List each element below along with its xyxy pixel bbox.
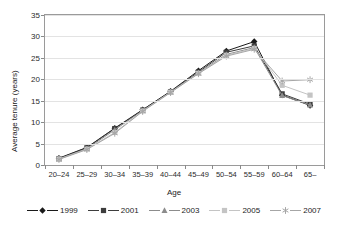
x-axis-tick-mark	[73, 165, 74, 169]
x-axis-tick-mark	[268, 165, 269, 169]
x-axis-tick-mark	[101, 165, 102, 169]
gridline	[45, 15, 324, 16]
legend-line-segment	[209, 210, 220, 211]
legend-line-segment	[290, 210, 301, 211]
x-axis-tick-mark	[45, 165, 46, 169]
y-axis-tick-label: 35	[18, 11, 40, 20]
legend-item-1999[interactable]: 1999	[27, 206, 78, 215]
chart-legend: 19992001200320052007	[0, 206, 348, 215]
legend-marker-diamond-icon	[38, 206, 47, 215]
x-axis-tick-label: 60–64	[272, 170, 293, 179]
x-axis-tick-mark	[296, 165, 297, 169]
x-axis-tick-label: 65–	[304, 170, 317, 179]
data-point-triangle	[161, 207, 167, 213]
x-axis-tick-label: 20–24	[49, 170, 70, 179]
x-axis-tick-label: 40–44	[160, 170, 181, 179]
legend-label: 2007	[303, 206, 321, 215]
y-axis-tick-label: 20	[18, 75, 40, 84]
legend-line-segment	[88, 210, 99, 211]
x-axis-tick-label: 50–54	[216, 170, 237, 179]
legend-label: 2003	[182, 206, 200, 215]
gridline	[45, 79, 324, 80]
x-axis-tick-label: 25–29	[76, 170, 97, 179]
series-line	[59, 48, 310, 159]
x-axis-tick-label: 45–49	[188, 170, 209, 179]
legend-item-2003[interactable]: 2003	[149, 206, 200, 215]
legend-label: 1999	[60, 206, 78, 215]
gridline	[45, 36, 324, 37]
legend-line-segment	[27, 210, 38, 211]
x-axis-tick-mark	[212, 165, 213, 169]
series-2007	[56, 46, 313, 163]
x-axis-tick-mark	[185, 165, 186, 169]
data-point-asterisk	[283, 207, 289, 214]
legend-label: 2001	[121, 206, 139, 215]
legend-item-2001[interactable]: 2001	[88, 206, 139, 215]
x-axis-title: Age	[0, 188, 348, 197]
legend-line-segment	[47, 210, 58, 211]
y-axis-tick-label: 30	[18, 32, 40, 41]
gridline	[45, 144, 324, 145]
legend-item-2007[interactable]: 2007	[270, 206, 321, 215]
x-axis-tick-mark	[240, 165, 241, 169]
x-axis-tick-mark	[324, 165, 325, 169]
y-axis-tick-label: 10	[18, 118, 40, 127]
gridline	[45, 58, 324, 59]
legend-marker-asterisk-icon	[281, 206, 290, 215]
y-axis-tick-label: 15	[18, 96, 40, 105]
x-axis-tick-label: 35–39	[132, 170, 153, 179]
data-point-diamond	[39, 207, 45, 213]
y-axis-tick-label: 5	[18, 139, 40, 148]
gridline	[45, 101, 324, 102]
x-axis-tick-mark	[157, 165, 158, 169]
legend-line-segment	[108, 210, 119, 211]
chart-container: Average tenure (years) 05101520253035 20…	[0, 0, 348, 232]
plot-area	[44, 14, 325, 166]
gridline	[45, 122, 324, 123]
data-point-square	[101, 208, 106, 213]
legend-marker-square-light-icon	[220, 206, 229, 215]
series-canvas	[45, 15, 324, 165]
legend-line-segment	[169, 210, 180, 211]
data-point-square-light	[222, 208, 227, 213]
x-axis-tick-label: 55–59	[244, 170, 265, 179]
legend-label: 2005	[242, 206, 260, 215]
x-axis-tick-label: 30–34	[104, 170, 125, 179]
x-axis-tick-mark	[129, 165, 130, 169]
y-axis-tick-label: 0	[18, 161, 40, 170]
legend-marker-square-icon	[99, 206, 108, 215]
y-axis-tick-label: 25	[18, 53, 40, 62]
legend-line-segment	[229, 210, 240, 211]
legend-line-segment	[149, 210, 160, 211]
legend-line-segment	[270, 210, 281, 211]
legend-item-2005[interactable]: 2005	[209, 206, 260, 215]
data-point-square-light	[307, 93, 312, 98]
legend-marker-triangle-icon	[160, 206, 169, 215]
